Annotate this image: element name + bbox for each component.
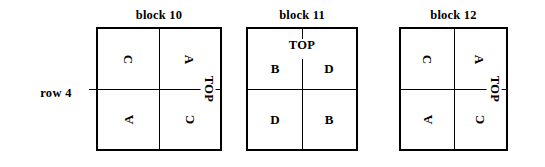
block-10-letter-top-right: A	[183, 54, 196, 63]
block-11-top-caption: TOP	[288, 39, 317, 52]
block-12-letter-bottom-right: C	[473, 114, 486, 123]
block-12-letter-bottom-left: A	[421, 114, 434, 123]
block-10-cell-bottom-left: A	[98, 89, 159, 149]
block-10-letter-bottom-right: C	[183, 114, 196, 123]
block-12-letter-top-left: C	[421, 54, 434, 63]
block-11-letter-top-right: D	[324, 62, 333, 75]
block-12-top-caption: TOP	[487, 76, 502, 103]
block-10-vertical-divider	[159, 29, 160, 149]
block-group-10: block 10 C A A C TOP	[96, 8, 222, 151]
block-title-12: block 12	[399, 8, 508, 23]
block-11-letter-bottom-left: D	[270, 113, 279, 126]
block-grid-11: B D D B TOP	[246, 27, 358, 151]
block-10-letter-top-left: C	[122, 54, 135, 63]
block-11-vertical-divider-lower	[302, 59, 303, 149]
block-10-cell-top-left: C	[98, 29, 159, 89]
block-10-top-caption: TOP	[201, 76, 216, 103]
block-group-11: block 11 B D D B TOP	[246, 8, 358, 151]
block-12-letter-top-right: A	[473, 54, 486, 63]
block-10-letter-bottom-left: A	[122, 114, 135, 123]
block-12-vertical-divider	[454, 29, 455, 149]
block-group-12: block 12 C A A C TOP	[399, 8, 508, 151]
block-title-11: block 11	[246, 8, 358, 23]
row-label: row 4	[20, 86, 92, 101]
row-line-tick-left-10	[89, 89, 98, 90]
block-grid-12: C A A C TOP	[399, 27, 508, 151]
block-11-cell-bottom-left: D	[248, 89, 302, 149]
block-11-cell-bottom-right: B	[302, 89, 356, 149]
block-12-cell-bottom-left: A	[401, 89, 454, 149]
block-12-cell-top-left: C	[401, 29, 454, 89]
block-11-letter-bottom-right: B	[325, 113, 334, 126]
block-grid-10: C A A C TOP	[96, 27, 222, 151]
block-11-letter-top-left: B	[271, 62, 280, 75]
block-title-10: block 10	[96, 8, 222, 23]
